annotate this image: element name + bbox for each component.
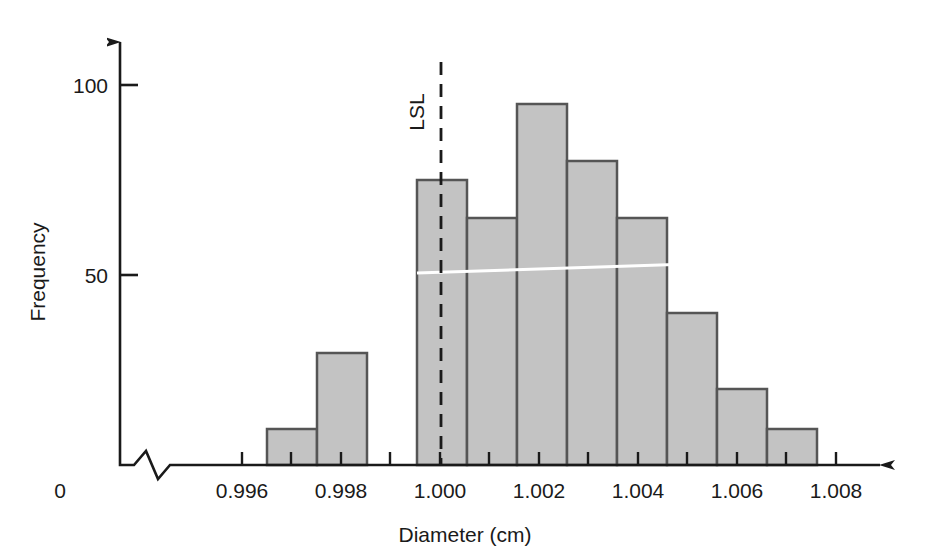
bars-group [267,104,817,465]
x-tick-label-0996: 0.996 [216,479,269,502]
x-tick-label-1008: 1.008 [810,479,863,502]
y-tick-label-50: 50 [85,264,108,287]
x-tick-label-1002: 1.002 [513,479,566,502]
lsl-label: LSL [405,93,428,130]
bar [767,429,817,465]
bar [617,218,667,465]
bar [317,353,367,465]
bar [517,104,567,465]
y-tick-label-0: 0 [54,479,66,502]
bar [467,218,517,465]
y-axis-title: Frequency [26,222,49,322]
x-axis-title: Diameter (cm) [398,523,531,546]
x-tick-label-1000: 1.000 [414,479,467,502]
y-ticks-group [120,85,138,275]
histogram-chart: 100 50 0 0.996 0.998 1.000 1.002 1.004 1… [0,0,931,557]
bar [717,389,767,465]
x-tick-label-1004: 1.004 [612,479,665,502]
bar [567,161,617,465]
y-tick-label-100: 100 [73,74,108,97]
x-tick-label-0998: 0.998 [315,479,368,502]
axis-break-zigzag [120,446,185,479]
x-tick-label-1006: 1.006 [711,479,764,502]
bar [667,313,717,465]
chart-canvas: 100 50 0 0.996 0.998 1.000 1.002 1.004 1… [0,0,931,557]
